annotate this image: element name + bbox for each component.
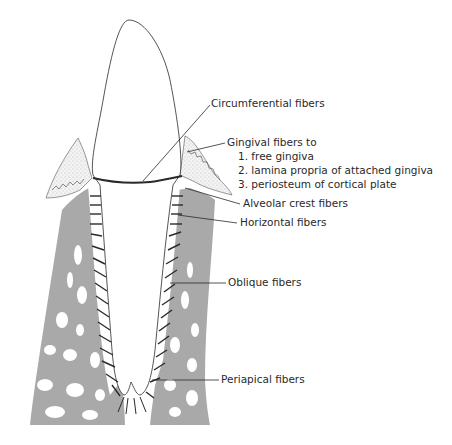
- label-gingival-item-2: 2. lamina propria of attached gingiva: [238, 164, 433, 177]
- diagram-canvas: Circumferential fibers Gingival fibers t…: [0, 0, 452, 445]
- label-gingival-fibers-title: Gingival fibers to: [227, 136, 317, 149]
- label-gingival-item-3: 3. periosteum of cortical plate: [238, 178, 396, 191]
- label-gingival-item-1: 1. free gingiva: [238, 150, 314, 163]
- label-circumferential-fibers: Circumferential fibers: [211, 97, 325, 110]
- label-horizontal-fibers: Horizontal fibers: [240, 216, 326, 229]
- label-oblique-fibers: Oblique fibers: [228, 276, 301, 289]
- right-gingiva: [180, 136, 232, 195]
- label-alveolar-crest-fibers: Alveolar crest fibers: [243, 197, 348, 210]
- label-periapical-fibers: Periapical fibers: [221, 373, 305, 386]
